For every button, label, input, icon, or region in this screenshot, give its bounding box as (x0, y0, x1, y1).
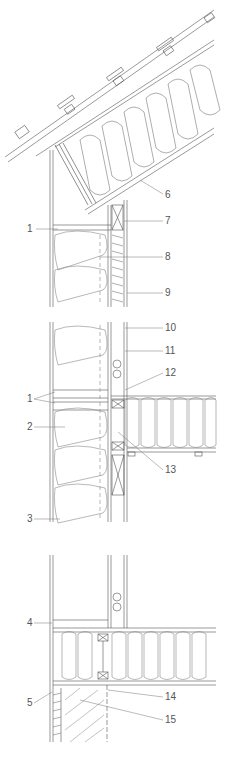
callout-label-8: 8 (165, 252, 171, 262)
mid-wall-floor (50, 322, 216, 523)
callout-label-11: 11 (165, 346, 175, 356)
leader-lines (34, 180, 163, 720)
callout-label-9: 9 (165, 288, 171, 298)
callout-label-12: 12 (165, 368, 176, 378)
callout-label-1a: 1 (27, 224, 33, 234)
construction-section-drawing (0, 0, 236, 757)
callout-label-14: 14 (165, 692, 176, 702)
callout-label-3: 3 (27, 514, 33, 524)
callout-label-10: 10 (165, 323, 176, 333)
callout-label-4: 4 (27, 618, 33, 628)
roof-assembly (5, 10, 220, 214)
upper-wall (50, 150, 127, 307)
callout-label-1b: 1 (27, 394, 33, 404)
callout-label-15: 15 (165, 715, 176, 725)
callout-label-13: 13 (165, 465, 176, 475)
callout-label-6: 6 (165, 190, 171, 200)
lower-wall-foundation (50, 555, 216, 742)
callout-label-2: 2 (27, 422, 33, 432)
callout-label-5: 5 (27, 698, 33, 708)
callout-label-7: 7 (165, 216, 171, 226)
